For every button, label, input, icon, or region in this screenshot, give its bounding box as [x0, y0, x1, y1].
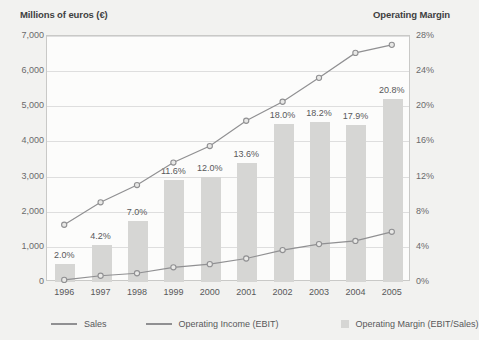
bar-value-label: 7.0% — [127, 207, 148, 217]
y-axis-tick-label-right: 24% — [416, 65, 456, 75]
bar[interactable] — [164, 180, 184, 282]
right-axis-title: Operating Margin — [373, 9, 450, 20]
bar[interactable] — [274, 124, 294, 282]
bar-value-label: 13.6% — [233, 149, 259, 159]
bar[interactable] — [128, 221, 148, 283]
y-axis-tick-label-right: 12% — [416, 171, 456, 181]
x-axis-tick-label: 2002 — [273, 287, 293, 297]
bar-value-label: 12.0% — [197, 163, 223, 173]
legend-label-sales: Sales — [84, 319, 107, 329]
y-axis-tick-label-left: 4,000 — [0, 135, 44, 145]
y-axis-tick-label-right: 4% — [416, 241, 456, 251]
bar-value-label: 20.8% — [379, 85, 405, 95]
y-axis-tick-label-right: 16% — [416, 135, 456, 145]
legend-line-icon-operating-income — [146, 323, 172, 325]
left-axis-title: Millions of euros (€) — [20, 9, 108, 20]
x-axis-tick-label: 1998 — [127, 287, 147, 297]
bar[interactable] — [92, 245, 112, 282]
legend-item-sales[interactable]: Sales — [51, 319, 107, 329]
y-axis-tick-label-left: 0 — [0, 276, 44, 286]
y-axis-tick-label-left: 5,000 — [0, 100, 44, 110]
legend-label-operating-margin: Operating Margin (EBIT/Sales) — [356, 319, 479, 329]
legend-line-icon-sales — [51, 323, 77, 325]
bar-value-label: 17.9% — [343, 111, 369, 121]
y-axis-tick-label-left: 7,000 — [0, 30, 44, 40]
y-axis-tick-label-left: 3,000 — [0, 171, 44, 181]
x-axis-tick-label: 1999 — [163, 287, 183, 297]
bar[interactable] — [201, 177, 221, 282]
legend-item-operating-margin[interactable]: Operating Margin (EBIT/Sales) — [341, 319, 479, 329]
bar-value-label: 18.0% — [270, 110, 296, 120]
plot-area — [46, 35, 410, 281]
bar-value-label: 2.0% — [54, 250, 75, 260]
y-axis-tick-label-right: 8% — [416, 206, 456, 216]
gridline — [47, 106, 409, 107]
gridline — [47, 36, 409, 37]
x-axis-tick-label: 2003 — [309, 287, 329, 297]
legend-label-operating-income: Operating Income (EBIT) — [179, 319, 279, 329]
bar[interactable] — [237, 163, 257, 282]
legend-swatch-icon-operating-margin — [341, 320, 349, 328]
legend-item-operating-income[interactable]: Operating Income (EBIT) — [146, 319, 279, 329]
x-axis-tick-label: 2004 — [345, 287, 365, 297]
x-axis-tick-label: 1996 — [54, 287, 74, 297]
bar-value-label: 11.6% — [161, 166, 186, 176]
bar-value-label: 18.2% — [306, 108, 332, 118]
bar[interactable] — [310, 122, 330, 282]
bar[interactable] — [55, 264, 75, 282]
x-axis-tick-label: 1997 — [91, 287, 111, 297]
gridline — [47, 71, 409, 72]
x-axis-tick-label: 2000 — [200, 287, 220, 297]
y-axis-tick-label-right: 28% — [416, 30, 456, 40]
y-axis-tick-label-right: 20% — [416, 100, 456, 110]
bar[interactable] — [383, 99, 403, 282]
x-axis-tick-label: 2001 — [236, 287, 256, 297]
x-axis-tick-label: 2005 — [382, 287, 402, 297]
bar-value-label: 4.2% — [90, 231, 111, 241]
y-axis-tick-label-right: 0% — [416, 276, 456, 286]
chart-legend: Sales Operating Income (EBIT) Operating … — [0, 314, 458, 334]
y-axis-tick-label-left: 2,000 — [0, 206, 44, 216]
bar[interactable] — [346, 125, 366, 282]
y-axis-tick-label-left: 1,000 — [0, 241, 44, 251]
y-axis-tick-label-left: 6,000 — [0, 65, 44, 75]
